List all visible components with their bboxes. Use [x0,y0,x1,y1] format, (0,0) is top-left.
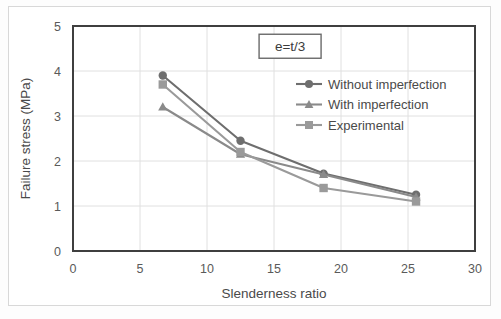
marker-circle [159,71,167,79]
x-tick-label: 15 [267,262,281,276]
x-tick-label: 25 [401,262,415,276]
marker-circle [305,80,313,88]
x-tick-label: 20 [334,262,348,276]
y-tick-label: 0 [54,245,61,259]
annotation-text: e=t/3 [275,39,305,54]
marker-square [412,197,420,205]
legend-label: Experimental [328,118,404,133]
x-tick-label: 30 [468,262,482,276]
y-tick-label: 3 [54,110,61,124]
marker-circle [236,137,244,145]
chart-canvas: 012345051015202530Slenderness ratioFailu… [0,0,501,319]
x-tick-label: 10 [200,262,214,276]
x-tick-label: 0 [70,262,77,276]
y-tick-label: 1 [54,200,61,214]
x-axis-title: Slenderness ratio [221,286,326,301]
marker-square [159,80,167,88]
y-axis-title: Failure stress (MPa) [18,78,33,200]
annotation-eccentricity-note: e=t/3 [259,34,321,58]
y-tick-label: 4 [54,65,61,79]
x-tick-label: 5 [137,262,144,276]
legend-label: Without imperfection [328,77,447,92]
y-tick-label: 2 [54,155,61,169]
chart-figure: 012345051015202530Slenderness ratioFailu… [0,0,501,319]
marker-square [319,184,327,192]
y-tick-label: 5 [54,20,61,34]
marker-square [236,148,244,156]
legend-label: With imperfection [328,97,428,112]
marker-square [305,121,313,129]
